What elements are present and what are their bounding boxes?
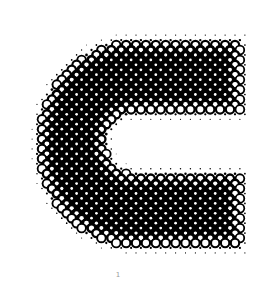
- caption-mark: 1: [113, 271, 123, 279]
- halftone-letter-c: [0, 0, 273, 289]
